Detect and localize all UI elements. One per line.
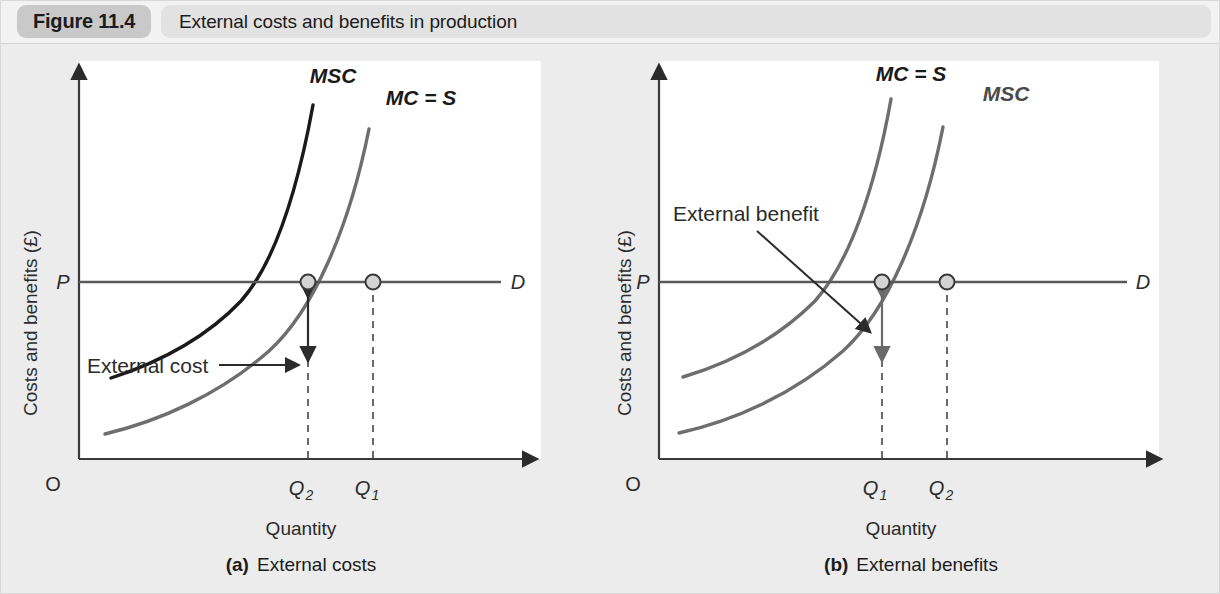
- external-benefit-annotation: External benefit: [673, 202, 819, 225]
- panel-caption-letter: (a): [226, 554, 249, 575]
- panel-caption: (a)External costs: [226, 554, 377, 575]
- curve-label-mc-s: MC = S: [386, 86, 457, 109]
- x-tick-label-first: Q1: [863, 477, 887, 503]
- figure-container: Figure 11.4 External costs and benefits …: [0, 0, 1220, 594]
- panel-external-costs: MSC MC = S P D O Q2 Q1 External cost Cos…: [1, 43, 611, 594]
- x-axis-title: Quantity: [266, 518, 337, 539]
- curve-label-msc: MSC: [983, 82, 1031, 105]
- price-label: P: [56, 271, 70, 293]
- panel-caption-text: External benefits: [856, 554, 998, 575]
- x-tick-label-first: Q2: [289, 477, 314, 503]
- equilibrium-marker-q2: [940, 275, 955, 290]
- panel-caption-letter: (b): [824, 554, 848, 575]
- equilibrium-marker-q2: [301, 275, 316, 290]
- x-tick-second-letter: Q: [355, 477, 371, 499]
- x-tick-label-second: Q2: [929, 477, 954, 503]
- equilibrium-marker-q1: [875, 275, 890, 290]
- curve-label-mc-s: MC = S: [876, 62, 947, 85]
- curve-label-msc: MSC: [310, 64, 358, 87]
- demand-label: D: [511, 271, 525, 293]
- x-tick-first-letter: Q: [289, 477, 305, 499]
- x-tick-label-second: Q1: [355, 477, 379, 503]
- plot-area-background: [659, 61, 1159, 459]
- figure-number-badge: Figure 11.4: [17, 5, 151, 38]
- demand-label: D: [1136, 271, 1150, 293]
- x-tick-second-subscript: 2: [944, 487, 953, 503]
- figure-header: Figure 11.4 External costs and benefits …: [1, 1, 1220, 44]
- y-axis-title: Costs and benefits (£): [20, 230, 41, 416]
- x-tick-first-subscript: 1: [879, 487, 887, 503]
- external-cost-annotation: External cost: [87, 354, 209, 377]
- x-axis-title: Quantity: [866, 518, 937, 539]
- x-tick-second-letter: Q: [929, 477, 945, 499]
- y-axis-title: Costs and benefits (£): [614, 230, 635, 416]
- panel-external-benefits: MC = S MSC P D O Q1 Q2 External benefit …: [611, 43, 1220, 594]
- panel-caption: (b)External benefits: [824, 554, 998, 575]
- panel-caption-text: External costs: [257, 554, 376, 575]
- x-tick-first-letter: Q: [863, 477, 879, 499]
- origin-label: O: [45, 473, 61, 495]
- x-tick-second-subscript: 1: [371, 487, 379, 503]
- x-tick-first-subscript: 2: [304, 487, 313, 503]
- price-label: P: [636, 271, 650, 293]
- origin-label: O: [625, 473, 641, 495]
- equilibrium-marker-q1: [366, 275, 381, 290]
- figure-title: External costs and benefits in productio…: [161, 5, 1211, 38]
